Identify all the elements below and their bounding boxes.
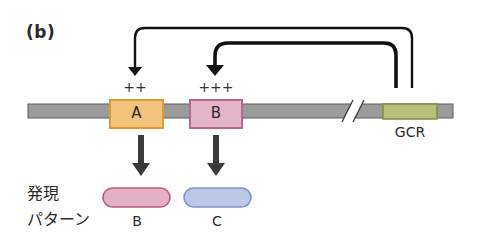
arrowhead-b-icon bbox=[206, 65, 224, 76]
expression-label-b: B bbox=[107, 213, 167, 229]
expression-oval-c bbox=[184, 188, 251, 207]
panel-label: (b) bbox=[26, 22, 55, 42]
gene-a-label: A bbox=[110, 104, 163, 122]
expression-label-c: C bbox=[187, 213, 247, 229]
expression-title-line1: 発現 bbox=[27, 180, 59, 204]
expression-title-line2: パターン bbox=[27, 206, 90, 230]
down-arrow-a-icon bbox=[132, 135, 150, 176]
arrowhead-a-icon bbox=[128, 67, 142, 76]
gene-b-level: +++ bbox=[186, 79, 246, 95]
gene-b-label: B bbox=[190, 104, 242, 122]
gene-a-level: ++ bbox=[105, 79, 165, 95]
down-arrow-b-icon bbox=[207, 135, 225, 176]
arrow-gcr-to-a-icon bbox=[135, 28, 412, 88]
gcr-box bbox=[383, 104, 437, 119]
gcr-label: GCR bbox=[380, 124, 440, 140]
expression-oval-b bbox=[103, 188, 170, 207]
